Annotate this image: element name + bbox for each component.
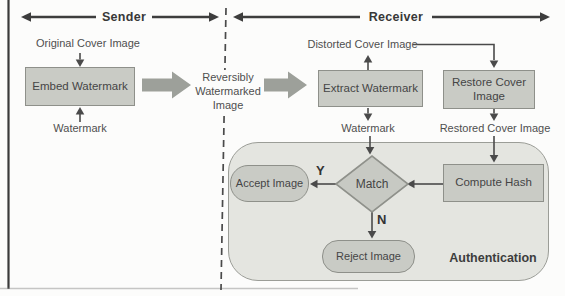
arrowhead-watermark-to-embed-icon (76, 107, 85, 115)
arrowhead-match-to-reject-icon (368, 231, 377, 239)
receiver-arrowhead-right-icon (540, 12, 550, 21)
reversibly-watermarked-image-label: Reversibly Watermarked Image (192, 70, 264, 113)
arrowhead-distorted-to-restore-icon (490, 61, 499, 69)
elbow-distorted-to-restore (413, 45, 494, 61)
block-arrow-transfer-to-receiver-icon (258, 72, 307, 99)
sender-receiver-separator-dashed-line (221, 8, 226, 290)
sender-arrowhead-left-icon (21, 12, 31, 21)
extract-watermark-node: Extract Watermark (318, 70, 423, 107)
match-no-label: N (377, 212, 386, 227)
arrowhead-extract-to-watermark-icon (364, 114, 373, 122)
connectors (76, 45, 499, 239)
accept-image-node: Accept Image (230, 165, 309, 202)
original-cover-image-label: Original Cover Image (26, 37, 150, 51)
sender-section-label: Sender (98, 10, 150, 24)
arrowhead-match-to-accept-icon (310, 180, 318, 189)
sender-arrowhead-right-icon (209, 12, 219, 21)
arrowhead-extract-to-distorted-icon (364, 55, 373, 63)
restore-cover-image-node: Restore Cover Image (443, 70, 535, 109)
restored-cover-image-label: Restored Cover Image (436, 122, 554, 136)
block-arrow-sender-to-transfer-icon (142, 72, 191, 99)
arrowhead-restore-to-restored-icon (490, 114, 499, 122)
arrowhead-restored-to-computehash-icon (490, 155, 499, 163)
authentication-label: Authentication (438, 251, 548, 267)
match-yes-label: Y (316, 163, 325, 178)
watermark-input-label: Watermark (40, 122, 120, 136)
reject-image-node: Reject Image (322, 240, 415, 273)
embed-watermark-node: Embed Watermark (25, 67, 135, 106)
distorted-cover-image-label: Distorted Cover Image (305, 38, 420, 52)
arrowhead-original-to-embed-icon (76, 60, 85, 68)
extracted-watermark-label: Watermark (333, 122, 403, 136)
receiver-arrowhead-left-icon (233, 12, 243, 21)
arrowhead-watermark-to-match-icon (366, 147, 375, 155)
match-label: Match (345, 177, 399, 192)
compute-hash-node: Compute Hash (443, 164, 544, 202)
receiver-section-label: Receiver (364, 10, 428, 24)
